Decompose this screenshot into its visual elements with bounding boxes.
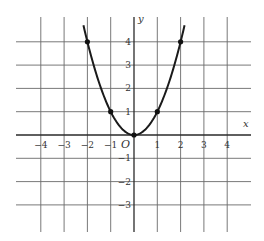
x-tick-label: −1 [104,140,117,150]
data-point [108,109,113,114]
y-tick-label: −3 [118,200,132,210]
data-point [178,39,183,44]
y-tick-label: 4 [125,37,131,47]
x-axis-label: x [243,118,249,129]
y-tick-label: 3 [125,60,131,70]
x-tick-label: 3 [201,140,207,150]
y-tick-label: −2 [118,177,131,187]
y-tick-label: 1 [125,107,131,117]
x-tick-label: −2 [81,140,94,150]
x-tick-label: 2 [178,140,184,150]
y-tick-label: 2 [125,83,131,93]
data-point [155,109,160,114]
x-tick-label: 4 [224,140,230,150]
origin-label: O [121,138,130,151]
y-tick-label: −1 [118,153,131,163]
data-point [131,132,136,137]
tick-labels: −4−3−2−112344321−1−2−3 [34,37,230,210]
x-tick-label: −3 [57,140,71,150]
parabola-graph: −4−3−2−112344321−1−2−3 x y O [0,0,264,241]
x-tick-label: −4 [34,140,48,150]
y-axis-label: y [137,13,144,24]
x-tick-label: 1 [154,140,160,150]
axes [16,17,251,232]
data-point [85,39,90,44]
